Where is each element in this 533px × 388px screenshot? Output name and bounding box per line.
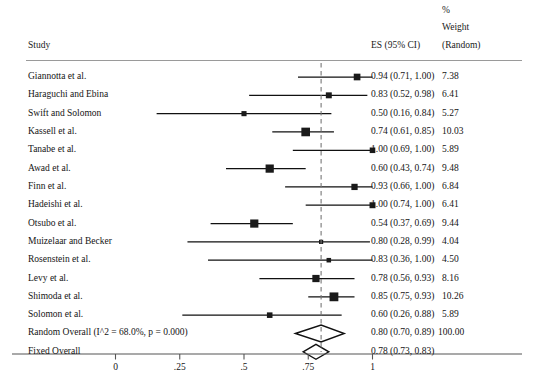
study-name: Haraguchi and Ebina bbox=[28, 89, 108, 100]
effect-size-value: 0.54 (0.37, 0.69) bbox=[371, 218, 434, 229]
study-marker bbox=[312, 275, 319, 282]
study-name: Otsubo et al. bbox=[28, 218, 76, 229]
column-header-weight: Weight bbox=[442, 22, 469, 33]
study-name: Levy et al. bbox=[28, 273, 68, 284]
study-marker bbox=[326, 92, 332, 98]
x-axis-tick-label: 1 bbox=[370, 362, 375, 373]
study-name: Shimoda et al. bbox=[28, 291, 83, 302]
effect-size-value: 0.78 (0.73, 0.83) bbox=[371, 346, 434, 357]
study-marker bbox=[351, 184, 357, 190]
summary-diamond bbox=[295, 325, 344, 342]
effect-size-value: 0.83 (0.36, 1.00) bbox=[371, 254, 434, 265]
x-axis-tick-label: .75 bbox=[302, 362, 314, 373]
column-header-percent: % bbox=[442, 5, 450, 16]
study-name: Awad et al. bbox=[28, 163, 71, 174]
weight-value: 7.38 bbox=[442, 71, 459, 82]
study-marker bbox=[354, 74, 361, 81]
study-name: Giannotta et al. bbox=[28, 71, 86, 82]
study-name: Hadeishi et al. bbox=[28, 199, 83, 210]
effect-size-value: 0.85 (0.75, 0.93) bbox=[371, 291, 434, 302]
effect-size-value: 0.60 (0.43, 0.74) bbox=[371, 163, 434, 174]
study-marker bbox=[266, 164, 274, 172]
effect-size-value: 0.50 (0.16, 0.84) bbox=[371, 108, 434, 119]
study-marker bbox=[301, 128, 310, 137]
header-separator-rule bbox=[26, 60, 522, 61]
weight-value: 6.84 bbox=[442, 181, 459, 192]
effect-size-value: 0.80 (0.70, 0.89) bbox=[371, 327, 434, 338]
weight-value: 4.50 bbox=[442, 254, 459, 265]
weight-value: 4.04 bbox=[442, 236, 459, 247]
column-header-random: (Random) bbox=[442, 40, 481, 51]
study-marker bbox=[241, 111, 246, 116]
weight-value: 5.27 bbox=[442, 108, 459, 119]
axis-group bbox=[12, 354, 522, 360]
weight-value: 9.44 bbox=[442, 218, 459, 229]
weight-value: 9.48 bbox=[442, 163, 459, 174]
effect-size-value: 1.00 (0.74, 1.00) bbox=[371, 199, 434, 210]
weight-value: 5.89 bbox=[442, 144, 459, 155]
weight-value: 6.41 bbox=[442, 89, 459, 100]
study-name: Finn et al. bbox=[28, 181, 66, 192]
weight-value: 10.26 bbox=[442, 291, 463, 302]
study-name: Swift and Solomon bbox=[28, 108, 101, 119]
effect-size-value: 0.83 (0.52, 0.98) bbox=[371, 89, 434, 100]
weight-value: 5.89 bbox=[442, 309, 459, 320]
weight-value: 8.16 bbox=[442, 273, 459, 284]
x-axis-tick-label: .5 bbox=[240, 362, 247, 373]
study-name: Tanabe et al. bbox=[28, 144, 76, 155]
study-name: Fixed Overall bbox=[28, 346, 81, 357]
effect-size-value: 0.78 (0.56, 0.93) bbox=[371, 273, 434, 284]
column-header-es: ES (95% CI) bbox=[371, 40, 420, 51]
effect-size-value: 0.93 (0.66, 1.00) bbox=[371, 181, 434, 192]
weight-value: 10.03 bbox=[442, 126, 463, 137]
x-axis-tick-label: 0 bbox=[113, 362, 118, 373]
study-name: Rosenstein et al. bbox=[28, 254, 91, 265]
study-marker bbox=[267, 312, 273, 318]
study-marker bbox=[327, 258, 332, 263]
weight-value: 100.00 bbox=[438, 327, 464, 338]
markers-group bbox=[241, 74, 375, 318]
study-name: Solomon et al. bbox=[28, 309, 83, 320]
effect-size-value: 0.60 (0.26, 0.88) bbox=[371, 309, 434, 320]
effect-size-value: 0.80 (0.28, 0.99) bbox=[371, 236, 434, 247]
study-marker bbox=[330, 292, 339, 301]
study-name: Muizelaar and Becker bbox=[28, 236, 112, 247]
study-name: Random Overall (I^2 = 68.0%, p = 0.000) bbox=[28, 327, 188, 338]
effect-size-value: 0.94 (0.71, 1.00) bbox=[371, 71, 434, 82]
ci-lines-group bbox=[157, 77, 373, 315]
effect-size-value: 0.74 (0.61, 0.85) bbox=[371, 126, 434, 137]
study-name: Kassell et al. bbox=[28, 126, 77, 137]
weight-value: 6.41 bbox=[442, 199, 459, 210]
column-header-study: Study bbox=[28, 40, 50, 51]
study-marker bbox=[250, 219, 258, 227]
effect-size-value: 1.00 (0.69, 1.00) bbox=[371, 144, 434, 155]
summary-diamond bbox=[303, 344, 329, 359]
x-axis-tick-label: .25 bbox=[174, 362, 186, 373]
